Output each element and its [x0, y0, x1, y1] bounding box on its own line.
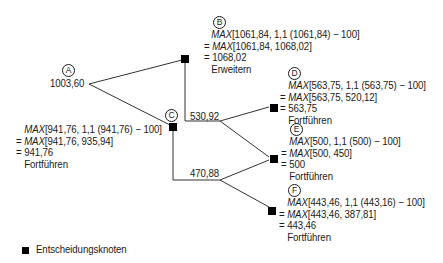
- node-e-decision: Fortführen: [281, 171, 401, 183]
- legend-decision-node-icon: [22, 247, 29, 254]
- node-d-line-3: = 563,75: [280, 103, 426, 115]
- decision-node-c: [169, 123, 177, 131]
- branch-value-upper: 530,92: [190, 111, 219, 123]
- decision-node-f: [268, 207, 276, 215]
- node-a-value: 1003,60: [50, 78, 84, 90]
- node-b-calculation: MAX[1061,84, 1,1 (1061,84) − 100] = MAX[…: [204, 29, 360, 75]
- node-b-decision: Erweitern: [204, 64, 360, 76]
- node-c-line-3: = 941,76: [16, 147, 162, 159]
- node-a-marker: A: [62, 64, 75, 77]
- node-f-calculation: MAX[443,46, 1,1 (443,16) − 100] = MAX[44…: [279, 197, 425, 243]
- node-e-calculation: MAX[500, 1,1 (500) − 100] = MAX[500, 450…: [281, 136, 401, 182]
- node-d-decision: Fortführen: [280, 115, 426, 127]
- decision-node-d: [270, 104, 278, 112]
- node-e-line-3: = 500: [281, 159, 401, 171]
- node-c-calculation: MAX[941,76, 1,1 (941,76) − 100] = MAX[94…: [16, 124, 162, 170]
- decision-tree-diagram: A 1003,60 B MAX[1061,84, 1,1 (1061,84) −…: [0, 0, 443, 263]
- node-b-line-3: = 1068,02: [204, 52, 360, 64]
- node-f-line-3: = 443,46: [279, 220, 425, 232]
- decision-node-e: [270, 155, 278, 163]
- node-c-decision: Fortführen: [16, 159, 162, 171]
- node-d-calculation: MAX[563,75, 1,1 (563,75) − 100] = MAX[56…: [280, 80, 426, 126]
- node-f-decision: Fortführen: [279, 232, 425, 244]
- decision-node-b: [181, 55, 189, 63]
- node-c-marker: C: [165, 109, 178, 122]
- legend-label: Entscheidungsknoten: [36, 244, 127, 256]
- branch-value-lower: 470,88: [190, 168, 219, 180]
